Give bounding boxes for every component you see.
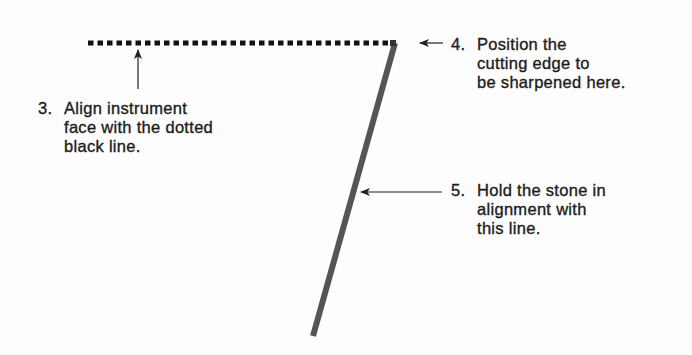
step-5-line-1: Hold the stone in: [477, 181, 606, 199]
step-4-label: 4.Position the cutting edge to be sharpe…: [451, 35, 626, 92]
step-4-number: 4.: [451, 35, 477, 54]
step-4-line-2: cutting edge to: [451, 54, 626, 73]
step-3-line-1: Align instrument: [64, 99, 187, 117]
step-3-label: 3.Align instrument face with the dotted …: [38, 99, 213, 156]
step-5-line-2: alignment with: [451, 200, 606, 219]
step-4-line-1: Position the: [477, 35, 567, 53]
stone-alignment-line: [313, 43, 395, 336]
cutting-edge-point: [390, 40, 396, 46]
step-3-line-3: black line.: [38, 137, 213, 156]
step-5-label: 5.Hold the stone in alignment with this …: [451, 181, 606, 238]
step-3-line-2: face with the dotted: [38, 118, 213, 137]
step-4-line-3: be sharpened here.: [451, 73, 626, 92]
step-5-line-3: this line.: [451, 219, 606, 238]
sharpening-diagram: 3.Align instrument face with the dotted …: [0, 0, 692, 355]
step-3-number: 3.: [38, 99, 64, 118]
step-5-number: 5.: [451, 181, 477, 200]
